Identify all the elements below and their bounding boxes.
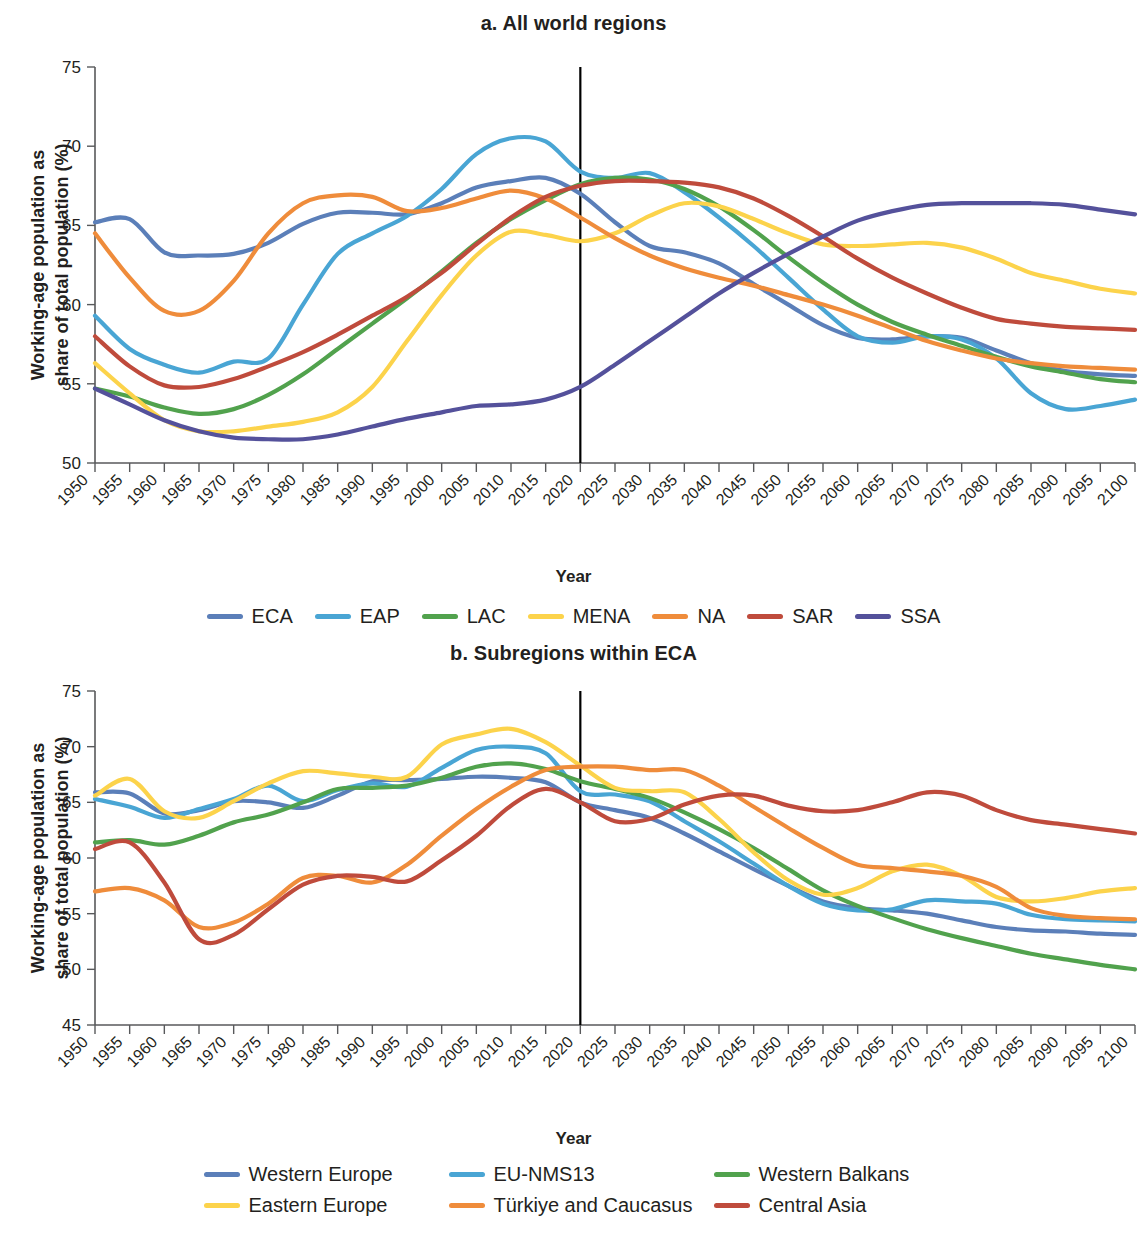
legend-swatch-icon (422, 614, 458, 619)
x-tick-label: 2090 (1025, 471, 1062, 508)
x-tick-label: 1950 (54, 471, 91, 508)
y-tick-label: 50 (62, 454, 81, 473)
x-tick-label: 2020 (539, 471, 576, 508)
legend-row: Western EuropeEU-NMS13Western Balkans (204, 1163, 944, 1186)
panel-b-title: b. Subregions within ECA (0, 642, 1147, 665)
y-tick-label: 70 (62, 137, 81, 156)
x-tick-label: 1955 (89, 1033, 126, 1070)
x-tick-label: 1960 (123, 471, 160, 508)
legend-swatch-icon (714, 1172, 750, 1177)
y-tick-label: 55 (62, 375, 81, 394)
x-tick-label: 2015 (505, 1033, 542, 1070)
y-tick-label: 65 (62, 216, 81, 235)
legend-label: Eastern Europe (249, 1194, 388, 1217)
y-tick-label: 50 (62, 960, 81, 979)
x-tick-label: 2030 (609, 1033, 646, 1070)
legend-item-na[interactable]: NA (652, 605, 725, 628)
legend-swatch-icon (204, 1172, 240, 1177)
legend-label: Western Europe (249, 1163, 393, 1186)
x-tick-label: 2060 (817, 1033, 854, 1070)
x-tick-label: 2085 (990, 471, 1027, 508)
chart-b-legend: Western EuropeEU-NMS13Western BalkansEas… (0, 1163, 1147, 1217)
y-tick-label: 45 (62, 1016, 81, 1035)
x-tick-label: 2005 (435, 1033, 472, 1070)
panel-a: a. All world regions Working-age populat… (0, 12, 1147, 628)
x-tick-label: 2070 (886, 1033, 923, 1070)
legend-label: SSA (900, 605, 940, 628)
panel-a-title: a. All world regions (0, 12, 1147, 35)
legend-row: Eastern EuropeTürkiye and CaucasusCentra… (204, 1194, 944, 1217)
x-tick-label: 2080 (955, 1033, 992, 1070)
legend-item-ssa[interactable]: SSA (855, 605, 940, 628)
x-tick-label: 1995 (366, 471, 403, 508)
x-tick-label: 2080 (955, 471, 992, 508)
legend-item-eca[interactable]: ECA (207, 605, 293, 628)
legend-swatch-icon (204, 1203, 240, 1208)
y-axis-label-line1: Working-age population as (28, 150, 48, 381)
x-tick-label: 2065 (851, 471, 888, 508)
y-tick-label: 60 (62, 296, 81, 315)
x-tick-label: 1970 (193, 1033, 230, 1070)
legend-label: ECA (252, 605, 293, 628)
y-tick-label: 65 (62, 793, 81, 812)
x-tick-label: 1975 (227, 1033, 264, 1070)
x-tick-label: 2035 (643, 471, 680, 508)
x-tick-label: 1965 (158, 1033, 195, 1070)
x-tick-label: 1990 (331, 1033, 368, 1070)
panel-b: b. Subregions within ECA Working-age pop… (0, 642, 1147, 1217)
legend-label: EU-NMS13 (494, 1163, 595, 1186)
legend-item-lac[interactable]: LAC (422, 605, 506, 628)
y-axis-label-line1: Working-age population as (28, 743, 48, 974)
legend-item-eu-nms13[interactable]: EU-NMS13 (449, 1163, 714, 1186)
legend-swatch-icon (714, 1203, 750, 1208)
chart-a-svg: Working-age population asshare of total … (0, 35, 1147, 575)
x-tick-label: 2095 (1059, 471, 1096, 508)
legend-label: Central Asia (759, 1194, 867, 1217)
x-tick-label: 2025 (574, 1033, 611, 1070)
y-tick-label: 75 (62, 682, 81, 701)
y-tick-label: 75 (62, 58, 81, 77)
x-tick-label: 1955 (89, 471, 126, 508)
panel-b-plot: Working-age population asshare of total … (0, 665, 1147, 1135)
x-tick-label: 2090 (1025, 1033, 1062, 1070)
x-tick-label: 2045 (713, 471, 750, 508)
x-tick-label: 2050 (747, 1033, 784, 1070)
x-tick-label: 2010 (470, 471, 507, 508)
x-tick-label: 2020 (539, 1033, 576, 1070)
legend-label: MENA (573, 605, 631, 628)
y-tick-label: 55 (62, 905, 81, 924)
x-tick-label: 2075 (921, 1033, 958, 1070)
series-line-lac (95, 178, 1135, 414)
legend-item-t-rkiye-and-caucasus[interactable]: Türkiye and Caucasus (449, 1194, 714, 1217)
chart-b-legend-rows: Western EuropeEU-NMS13Western BalkansEas… (204, 1163, 944, 1217)
legend-label: LAC (467, 605, 506, 628)
series-line-eastern-europe (95, 729, 1135, 902)
legend-item-central-asia[interactable]: Central Asia (714, 1194, 944, 1217)
x-tick-label: 2055 (782, 1033, 819, 1070)
legend-swatch-icon (449, 1203, 485, 1208)
legend-item-eastern-europe[interactable]: Eastern Europe (204, 1194, 449, 1217)
x-tick-label: 2040 (678, 1033, 715, 1070)
y-tick-label: 70 (62, 738, 81, 757)
legend-item-western-balkans[interactable]: Western Balkans (714, 1163, 944, 1186)
legend-swatch-icon (855, 614, 891, 619)
x-tick-label: 2055 (782, 471, 819, 508)
panel-a-plot: Working-age population asshare of total … (0, 35, 1147, 575)
x-tick-label: 2015 (505, 471, 542, 508)
x-tick-label: 2060 (817, 471, 854, 508)
legend-item-western-europe[interactable]: Western Europe (204, 1163, 449, 1186)
x-tick-label: 2095 (1059, 1033, 1096, 1070)
legend-swatch-icon (528, 614, 564, 619)
legend-item-mena[interactable]: MENA (528, 605, 631, 628)
x-tick-label: 2050 (747, 471, 784, 508)
legend-item-sar[interactable]: SAR (747, 605, 833, 628)
x-tick-label: 1970 (193, 471, 230, 508)
x-tick-label: 2070 (886, 471, 923, 508)
legend-item-eap[interactable]: EAP (315, 605, 400, 628)
legend-swatch-icon (449, 1172, 485, 1177)
x-tick-label: 1980 (262, 1033, 299, 1070)
x-tick-label: 2010 (470, 1033, 507, 1070)
chart-a-legend: ECAEAPLACMENANASARSSA (0, 605, 1147, 628)
x-tick-label: 1985 (297, 1033, 334, 1070)
x-tick-label: 1950 (54, 1033, 91, 1070)
